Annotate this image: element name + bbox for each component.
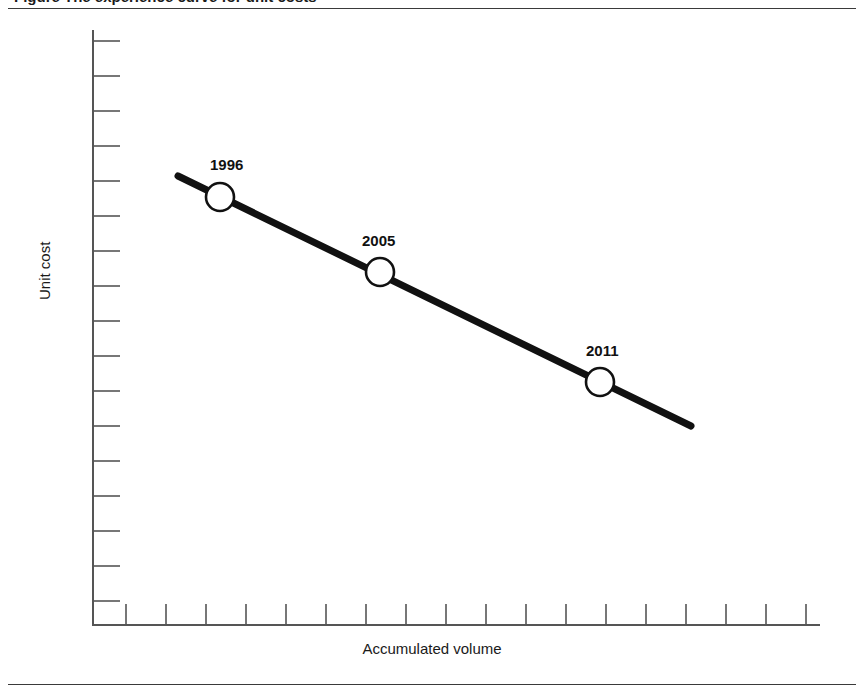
chart-plot-area — [0, 0, 864, 696]
data-point-label-2005: 2005 — [362, 232, 395, 249]
data-point-marker-2011[interactable] — [586, 368, 614, 396]
x-axis-ticks — [126, 604, 806, 625]
figure-container: Figure The experience curve for unit cos… — [0, 0, 864, 696]
x-axis-title: Accumulated volume — [0, 640, 864, 657]
data-point-label-1996: 1996 — [210, 156, 243, 173]
data-point-marker-1996[interactable] — [206, 183, 234, 211]
data-point-label-2011: 2011 — [586, 342, 619, 359]
y-axis-ticks — [93, 41, 120, 601]
figure-bottom-rule — [8, 684, 856, 685]
data-point-marker-2005[interactable] — [366, 258, 394, 286]
y-axis-title: Unit cost — [36, 242, 53, 300]
experience-curve-line — [178, 176, 691, 426]
